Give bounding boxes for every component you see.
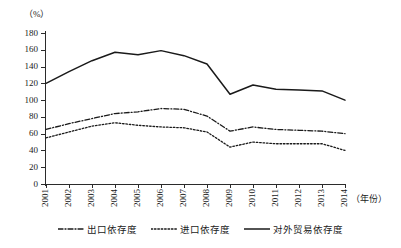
legend-label-import: 进口依存度 xyxy=(180,222,230,236)
series-plot xyxy=(0,0,401,248)
legend-swatch-solid-icon xyxy=(244,225,270,233)
series-line-total xyxy=(46,51,345,100)
line-chart: （%） 180160140120100806040200 20012002200… xyxy=(0,0,401,248)
chart-legend: 出口依存度 进口依存度 对外贸易依存度 xyxy=(0,222,401,236)
series-line-import xyxy=(46,123,345,151)
legend-item-import: 进口依存度 xyxy=(151,222,230,236)
legend-swatch-dash-dot-icon xyxy=(58,225,84,233)
legend-label-export: 出口依存度 xyxy=(87,222,137,236)
legend-item-total: 对外贸易依存度 xyxy=(244,222,343,236)
legend-swatch-dotted-icon xyxy=(151,225,177,233)
legend-label-total: 对外贸易依存度 xyxy=(273,222,343,236)
legend-item-export: 出口依存度 xyxy=(58,222,137,236)
